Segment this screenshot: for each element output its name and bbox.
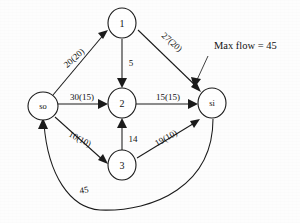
node-so[interactable]: so [28,92,58,120]
edge-label-1-to-si: 27(20) [160,30,185,53]
edge-so-to-3: 10(10) [55,117,108,164]
edge-1-to-2-arrowhead [117,78,127,88]
node-1-label: 1 [120,18,125,29]
edge-3-to-si-arrowhead [190,119,200,128]
edge-label-2-to-si: 15(15) [156,92,180,102]
node-so-label: so [39,101,47,111]
node-3[interactable]: 3 [108,150,136,180]
graph-canvas: 20(20) 27(20) 5 30(15) 15(15) [0,0,300,223]
edge-label-so-to-2: 30(15) [70,92,94,102]
edge-so-to-2: 30(15) [58,92,108,109]
node-2[interactable]: 2 [108,88,136,118]
edge-so-to-1-arrowhead [98,30,108,39]
edge-label-so-to-3: 10(10) [67,129,93,149]
edge-so-to-1-line [53,33,105,95]
edge-1-to-si: 27(20) [138,30,201,92]
node-1[interactable]: 1 [108,8,136,38]
edge-so-to-1: 20(20) [53,30,108,95]
edge-so-to-2-arrowhead [98,99,108,109]
edge-2-to-si: 15(15) [136,92,198,109]
edge-3-to-2: 14 [117,118,138,150]
node-3-label: 3 [120,160,125,171]
node-2-label: 2 [120,98,125,109]
edge-1-to-2: 5 [117,39,134,88]
edge-so-to-3-arrowhead [98,154,108,164]
max-flow-annotation-label: Max flow = 45 [214,40,277,51]
edge-label-so-to-1: 20(20) [62,46,87,69]
node-si-label: si [209,98,215,108]
edge-3-to-si: 19(10) [137,119,200,158]
edge-label-si-to-so: 45 [79,184,90,195]
max-flow-leader-line [196,56,208,82]
max-flow-annotation: Max flow = 45 [191,40,277,89]
edge-label-3-to-si: 19(10) [153,128,179,149]
edge-3-to-2-arrowhead [117,118,127,128]
node-si[interactable]: si [198,88,226,118]
flow-network-diagram: 20(20) 27(20) 5 30(15) 15(15) [0,0,300,223]
edge-2-to-si-arrowhead [188,99,198,109]
edge-label-3-to-2: 14 [129,134,139,144]
edge-label-1-to-2: 5 [129,58,134,68]
